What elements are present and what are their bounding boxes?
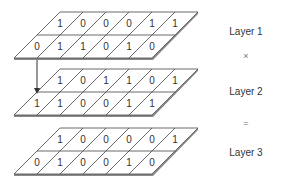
cell-value: 0	[80, 75, 86, 86]
cell-value: 1	[172, 75, 178, 86]
cell-value: 0	[34, 41, 40, 52]
cell-value: 1	[57, 134, 63, 145]
layer-2-grid: 101101110011	[14, 69, 198, 117]
layer-2-label: Layer 2	[216, 86, 276, 97]
cell-value: 1	[57, 41, 63, 52]
cell-value: 1	[103, 75, 109, 86]
cell-value: 1	[149, 18, 155, 29]
cell-value: 1	[57, 18, 63, 29]
cell-value: 0	[126, 18, 132, 29]
cell-value: 1	[172, 134, 178, 145]
cell-value: 0	[126, 134, 132, 145]
equals-operator: =	[216, 118, 276, 128]
cell-value: 1	[126, 98, 132, 109]
cell-value: 0	[80, 134, 86, 145]
cell-value: 0	[103, 18, 109, 29]
cell-value: 0	[80, 157, 86, 168]
cell-value: 1	[57, 75, 63, 86]
cell-value: 1	[126, 157, 132, 168]
cell-value: 1	[126, 41, 132, 52]
cell-value: 1	[80, 41, 86, 52]
cell-value: 0	[103, 98, 109, 109]
cell-value: 0	[149, 41, 155, 52]
cell-value: 1	[149, 98, 155, 109]
layer-3-label: Layer 3	[216, 147, 276, 158]
cell-value: 1	[57, 98, 63, 109]
cell-value: 1	[172, 18, 178, 29]
cell-value: 0	[149, 75, 155, 86]
cell-value: 1	[57, 157, 63, 168]
cell-value: 1	[34, 98, 40, 109]
cell-value: 1	[126, 75, 132, 86]
cell-value: 0	[80, 18, 86, 29]
cell-value: 0	[103, 134, 109, 145]
layer-1-label: Layer 1	[216, 26, 276, 37]
cell-value: 0	[80, 98, 86, 109]
layer-1-grid: 100011011010	[14, 12, 198, 60]
cell-value: 0	[103, 41, 109, 52]
multiply-operator: ×	[216, 51, 276, 61]
cell-value: 0	[103, 157, 109, 168]
layer-3-grid: 100001010010	[14, 128, 198, 176]
cell-value: 0	[149, 134, 155, 145]
cell-value: 0	[149, 157, 155, 168]
cell-value: 0	[34, 157, 40, 168]
